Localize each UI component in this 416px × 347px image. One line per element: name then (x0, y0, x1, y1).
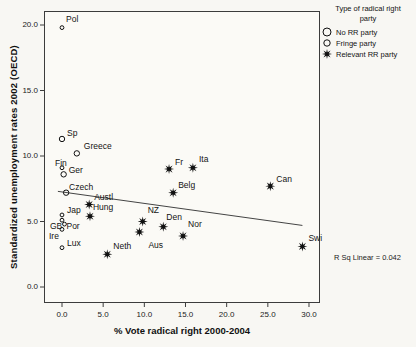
x-axis-title: % Vote radical right 2000-2004 (114, 325, 250, 336)
country-label-hung: Hung (93, 202, 113, 212)
legend-item-label: Relevant RR party (336, 50, 397, 59)
circle-glyph (324, 40, 330, 46)
country-label-neth: Neth (113, 241, 131, 251)
country-label-sp: Sp (67, 128, 77, 138)
circle-glyph (323, 28, 331, 36)
country-label-por: Por (66, 221, 79, 231)
star-glyph (322, 49, 332, 59)
country-label-ire: Ire (49, 231, 59, 241)
x-tick-label: 15.0 (178, 310, 194, 319)
legend-title-line2: party (320, 14, 416, 24)
country-label-nor: Nor (188, 219, 202, 229)
country-label-jap: Jap (67, 205, 81, 215)
country-label-greece: Greece (84, 141, 112, 151)
country-label-can: Can (276, 174, 292, 184)
legend-item-0: No RR party (320, 27, 416, 38)
legend-title-line1: Type of radical right (320, 4, 416, 14)
y-tick-label: 0.0 (8, 282, 38, 291)
country-label-den: Den (166, 212, 182, 222)
star-icon (320, 48, 336, 60)
country-label-nz: NZ (148, 205, 159, 215)
legend-item-label: Fringe party (336, 39, 376, 48)
r-squared-annotation: R Sq Linear = 0.042 (334, 253, 401, 262)
country-label-ita: Ita (199, 154, 208, 164)
legend-item-1: Fringe party (320, 38, 416, 49)
x-tick-label: 30.0 (301, 310, 317, 319)
x-tick-label: 5.0 (98, 310, 109, 319)
legend-item-label: No RR party (336, 28, 377, 37)
country-label-fr: Fr (175, 157, 183, 167)
legend-title: Type of radical right party (320, 4, 416, 24)
y-tick-label: 5.0 (8, 217, 38, 226)
x-tick-label: 0.0 (56, 310, 67, 319)
legend-item-2: Relevant RR party (320, 49, 416, 60)
scatter-plot-figure: Standardized unemployment rates 2002 (OE… (0, 0, 416, 347)
country-label-belg: Belg (178, 180, 195, 190)
country-label-gb: GB (50, 221, 62, 231)
y-tick-label: 15.0 (8, 86, 38, 95)
country-label-czech: Czech (69, 182, 93, 192)
country-label-austl: Austl (94, 192, 113, 202)
x-tick-label: 10.0 (137, 310, 153, 319)
country-label-aus: Aus (148, 240, 163, 250)
legend-items: No RR partyFringe partyRelevant RR party (320, 27, 416, 60)
y-tick-label: 20.0 (8, 20, 38, 29)
country-label-pol: Pol (66, 14, 78, 24)
country-label-ger: Ger (69, 165, 83, 175)
y-tick-label: 10.0 (8, 151, 38, 160)
country-label-lux: Lux (67, 238, 81, 248)
x-tick-label: 20.0 (219, 310, 235, 319)
country-label-swi: Swi (308, 233, 322, 243)
country-label-fin: Fin (55, 158, 67, 168)
x-tick-label: 25.0 (260, 310, 276, 319)
legend: Type of radical right party No RR partyF… (320, 4, 416, 60)
